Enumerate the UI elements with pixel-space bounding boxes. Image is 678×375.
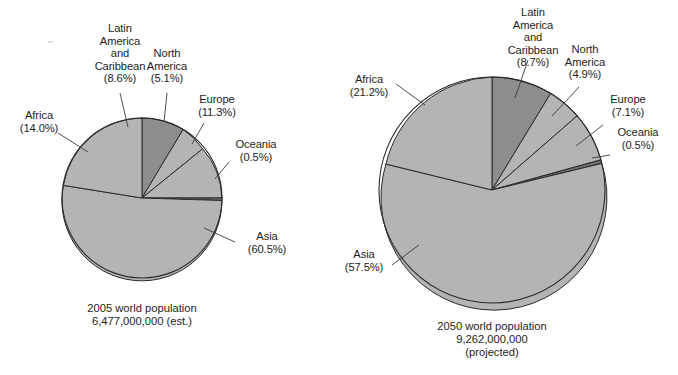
label-asia-2050: Asia (57.5%) bbox=[333, 248, 395, 273]
label-africa-2050: Africa (21.2%) bbox=[338, 73, 400, 98]
scan-artifact bbox=[48, 41, 53, 43]
label-europe-2050: Europe (7.1%) bbox=[594, 93, 662, 118]
caption-2050: 2050 world population 9,262,000,000 (pro… bbox=[402, 320, 582, 359]
pie-2050-slices bbox=[379, 77, 607, 310]
label-north-america-2050: North America (4.9%) bbox=[548, 43, 622, 81]
label-oceania-2050: Oceania (0.5%) bbox=[600, 126, 676, 151]
figure-canvas: Latin America and Caribbean (8.6%) North… bbox=[0, 0, 678, 375]
